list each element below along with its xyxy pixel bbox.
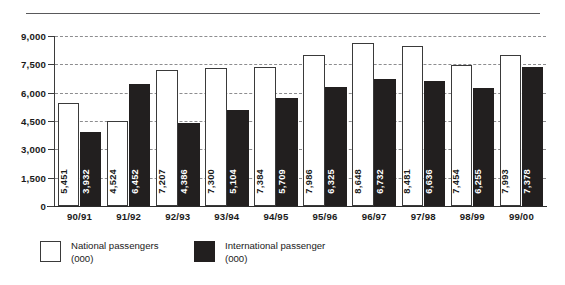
bar-national: 7,207 (156, 70, 178, 206)
bar-national: 7,986 (303, 55, 325, 206)
bar-value-label: 5,709 (278, 169, 287, 194)
plot-area: 5,4513,9324,5246,4527,2074,3867,3005,104… (55, 36, 546, 206)
legend-swatch-national (40, 241, 61, 262)
bar-international: 6,452 (129, 84, 151, 206)
y-axis-tick-label: 1,500 (2, 172, 46, 183)
x-axis-tick-label: 95/96 (301, 211, 350, 222)
y-axis-tick-label: 9,000 (2, 31, 46, 42)
bar-international: 4,386 (178, 123, 200, 206)
bar-value-label: 4,524 (108, 169, 117, 194)
y-axis-tick (48, 36, 54, 37)
bar-value-label: 7,384 (256, 169, 265, 194)
bar-value-label: 7,993 (501, 169, 510, 194)
bar-value-label: 4,386 (179, 169, 188, 194)
x-axis-tick-label: 92/93 (153, 211, 202, 222)
x-axis-tick-label: 93/94 (202, 211, 251, 222)
bar-value-label: 8,481 (403, 169, 412, 194)
bar-national: 7,454 (451, 65, 473, 206)
bar-value-label: 6,325 (327, 169, 336, 194)
bar-value-label: 8,648 (354, 169, 363, 194)
x-axis-tick-label: 97/98 (399, 211, 448, 222)
legend-label-international-line1: International passenger (225, 240, 325, 253)
bar-international: 5,709 (276, 98, 298, 206)
bar-international: 6,732 (374, 79, 396, 206)
y-axis-tick-label: 7,500 (2, 59, 46, 70)
x-axis-tick-label: 90/91 (55, 211, 104, 222)
bar-value-label: 6,732 (376, 169, 385, 194)
bar-chart-figure: 01,5003,0004,5006,0007,5009,000 5,4513,9… (0, 0, 565, 285)
bar-national: 8,648 (352, 43, 374, 206)
bar-value-label: 6,452 (130, 169, 139, 194)
bar-value-label: 6,255 (474, 169, 483, 194)
legend-label-national: National passengers (000) (71, 240, 158, 265)
y-axis-tick (48, 121, 54, 122)
legend-label-national-line1: National passengers (71, 240, 158, 253)
y-axis-tick (48, 149, 54, 150)
bar-international: 5,104 (227, 110, 249, 206)
bar-value-label: 5,104 (229, 169, 238, 194)
bar-international: 6,325 (325, 87, 347, 206)
header-divider (26, 13, 540, 14)
legend-label-national-line2: (000) (71, 253, 158, 266)
y-axis-tick (48, 206, 54, 207)
bar-national: 8,481 (402, 46, 424, 206)
bar-value-label: 7,207 (157, 169, 166, 194)
x-axis-tick-label: 91/92 (104, 211, 153, 222)
bar-international: 3,932 (80, 132, 102, 206)
bar-value-label: 7,454 (452, 169, 461, 194)
bar-value-label: 3,932 (81, 169, 90, 194)
bar-value-label: 7,378 (523, 169, 532, 194)
y-axis-tick (48, 178, 54, 179)
bar-value-label: 7,300 (207, 169, 216, 194)
y-axis-tick (48, 64, 54, 65)
x-axis-tick-label: 94/95 (251, 211, 300, 222)
legend-label-international-line2: (000) (225, 253, 325, 266)
legend-swatch-international (194, 241, 215, 262)
x-axis-tick-label: 96/97 (350, 211, 399, 222)
bar-national: 5,451 (58, 103, 80, 206)
bar-national: 7,384 (254, 67, 276, 206)
y-axis-tick-label: 0 (2, 201, 46, 212)
bar-international: 7,378 (522, 67, 544, 206)
bar-value-label: 7,986 (305, 169, 314, 194)
x-axis-tick-label: 99/00 (497, 211, 546, 222)
bar-national: 7,300 (205, 68, 227, 206)
bar-national: 7,993 (500, 55, 522, 206)
x-axis-tick-label: 98/99 (448, 211, 497, 222)
bar-international: 6,636 (424, 81, 446, 206)
y-axis-tick (48, 93, 54, 94)
legend-label-international: International passenger (000) (225, 240, 325, 265)
bar-national: 4,524 (107, 121, 129, 206)
bar-value-label: 5,451 (59, 169, 68, 194)
bar-value-label: 6,636 (425, 169, 434, 194)
y-axis-tick-label: 3,000 (2, 144, 46, 155)
y-axis-tick-label: 4,500 (2, 116, 46, 127)
bar-international: 6,255 (473, 88, 495, 206)
y-axis-tick-label: 6,000 (2, 87, 46, 98)
